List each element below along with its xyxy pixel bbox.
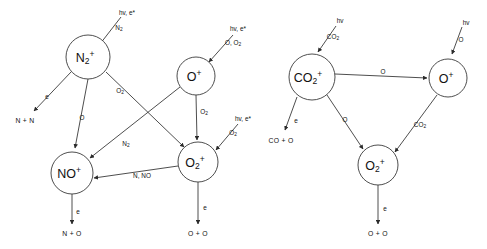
edge-label-o2p-oo: e [203, 204, 207, 211]
panel-mars-venus-ionosphere: CO2+ O+ O2+ hv CO2 hv O O e O CO2 [268, 17, 470, 237]
source-label-co2p-hv: hv [337, 17, 345, 24]
arrow-co2p-to-co-plus-o [285, 97, 297, 130]
arrow-source-to-n2p [100, 17, 121, 44]
edge-label-o2p-nop: N, NO [133, 172, 151, 179]
arrow-n2p-to-n-plus-n [34, 72, 71, 111]
source-label-n2p-n2: N2 [115, 24, 123, 32]
panel-earth-ionosphere: N2+ O+ NO+ O2+ hv, e* N2 hv, e* O, O2 [15, 9, 251, 237]
arrow-source-to-o2p [216, 124, 238, 150]
edge-label-co2p-o2p: O [343, 116, 348, 123]
terminal-label-o-plus-o: O + O [188, 230, 208, 237]
terminal-label-n-plus-o: N + O [62, 230, 81, 237]
source-label-op-o-o2: O, O2 [225, 39, 242, 47]
edge-label-n2p-nn: e [45, 93, 49, 100]
arrow-op-to-nop [90, 87, 180, 158]
source-label-op2-o: O [459, 36, 464, 43]
reaction-network-figure: N2+ O+ NO+ O2+ hv, e* N2 hv, e* O, O2 [0, 0, 487, 249]
source-label-o2p-o2: O2 [229, 129, 237, 137]
edge-label-o2p2-oo: e [383, 205, 387, 212]
edge-label-nop-no: e [76, 208, 80, 215]
terminal-label-n-plus-n: N + N [15, 117, 34, 124]
edge-label-n2p-o2p: O2 [116, 87, 124, 95]
edge-label-op2-o2p2: CO2 [414, 121, 427, 129]
edge-label-op-nop: N2 [122, 140, 130, 148]
source-label-op-hv: hv, e* [230, 25, 246, 32]
edge-label-co2p-op: O [381, 68, 386, 75]
edge-label-co2p-coo: e [294, 117, 298, 124]
source-label-n2p-hv: hv, e* [119, 9, 135, 16]
arrow-op-to-o2p [196, 95, 197, 140]
source-label-co2p-co2: CO2 [327, 33, 340, 41]
terminal-label-o-plus-o-2: O + O [368, 230, 388, 237]
edge-label-op-o2p: O2 [200, 108, 208, 116]
diagram-canvas: N2+ O+ NO+ O2+ hv, e* N2 hv, e* O, O2 [0, 0, 487, 249]
edge-label-n2p-nop: O [80, 114, 85, 121]
source-label-o2p-hv: hv, e* [235, 115, 251, 122]
source-label-op2-hv: hv [463, 19, 471, 26]
arrow-co2p-to-op [335, 74, 427, 78]
terminal-label-co-plus-o: CO + O [268, 137, 293, 144]
